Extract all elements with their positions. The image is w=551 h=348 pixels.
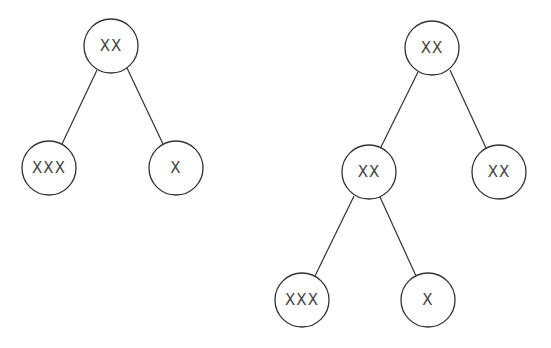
- edge: [127, 68, 163, 144]
- edge: [381, 72, 418, 147]
- svg-text:X: X: [170, 159, 181, 177]
- svg-text:XX: XX: [358, 163, 381, 181]
- svg-text:XXX: XXX: [285, 291, 319, 309]
- tree-node: XX: [84, 19, 138, 73]
- tree-diagram: XX XXX X XX XX XX XXX: [0, 0, 551, 348]
- svg-text:XX: XX: [488, 163, 511, 181]
- edge: [450, 70, 486, 148]
- tree-node: X: [401, 273, 455, 327]
- svg-text:X: X: [422, 291, 433, 309]
- svg-text:XX: XX: [100, 37, 123, 55]
- tree-node: XX: [405, 21, 459, 75]
- tree-node: XXX: [275, 273, 329, 327]
- left-tree: XX XXX X: [22, 19, 203, 195]
- tree-node: X: [149, 141, 203, 195]
- edge: [62, 70, 97, 144]
- tree-node: XXX: [22, 141, 76, 195]
- svg-text:XX: XX: [421, 39, 444, 57]
- right-tree: XX XX XX XXX X: [275, 21, 526, 327]
- edge: [380, 197, 416, 276]
- tree-node: XX: [472, 145, 526, 199]
- svg-text:XXX: XXX: [32, 159, 66, 177]
- edge: [315, 196, 354, 276]
- tree-node: XX: [342, 145, 396, 199]
